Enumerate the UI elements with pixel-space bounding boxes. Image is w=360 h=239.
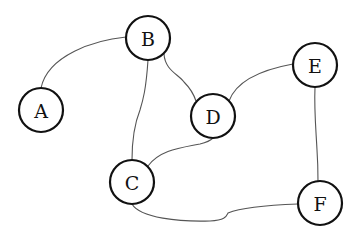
node-b: B [126, 16, 170, 60]
graph-diagram: ABCDEF [0, 0, 360, 239]
edges-layer [41, 37, 318, 221]
node-e: E [293, 43, 337, 87]
node-label: C [125, 172, 140, 194]
nodes-layer: ABCDEF [19, 16, 342, 225]
edge-d-e [229, 64, 293, 101]
edge-e-f [315, 87, 318, 181]
node-label: E [308, 55, 322, 77]
edge-b-c [132, 60, 148, 160]
node-label: F [313, 193, 326, 215]
edge-c-f [132, 204, 298, 221]
edge-c-d [148, 138, 213, 166]
node-a: A [19, 88, 63, 132]
node-label: A [33, 100, 48, 122]
node-c: C [110, 160, 154, 204]
node-f: F [298, 181, 342, 225]
node-label: D [205, 106, 220, 128]
node-label: B [141, 28, 155, 50]
edge-a-b [41, 37, 126, 88]
node-d: D [191, 94, 235, 138]
edge-b-d [164, 54, 196, 101]
